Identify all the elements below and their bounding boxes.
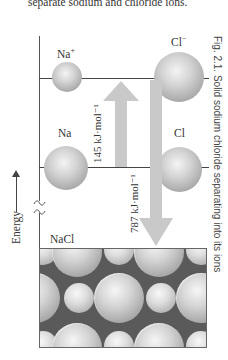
na-ion-lattice bbox=[64, 283, 94, 313]
lattice-energy-arrow-down bbox=[137, 80, 175, 248]
na-ion-lattice bbox=[146, 283, 176, 313]
cl-ion-lattice bbox=[94, 273, 144, 323]
na-ion-lattice bbox=[186, 248, 207, 265]
nacl-crystal-lattice bbox=[39, 248, 207, 348]
cl-ion-lattice bbox=[39, 273, 60, 323]
na-atom-label: Na bbox=[58, 127, 71, 139]
cl-ion-symbol: Cl bbox=[171, 36, 182, 48]
na-atom-sphere bbox=[44, 146, 88, 190]
energy-axis-label: Energy bbox=[10, 170, 24, 250]
na-ion-charge: + bbox=[70, 46, 75, 55]
energy-axis-upper bbox=[39, 36, 40, 201]
cl-ion-lattice bbox=[134, 248, 184, 277]
ionization-arrow-up bbox=[101, 79, 141, 167]
cl-ion-lattice bbox=[176, 273, 207, 323]
cl-ion-charge: − bbox=[182, 34, 187, 43]
cl-ion-lattice bbox=[134, 323, 184, 348]
na-ion-sphere bbox=[52, 62, 82, 92]
figure-caption: Fig. 2.1. Solid sodium chloride separati… bbox=[207, 36, 225, 266]
energy-label-text: Energy bbox=[10, 211, 22, 244]
na-ion-lattice bbox=[186, 331, 207, 348]
na-ion-lattice bbox=[104, 248, 134, 265]
intro-text: separate sodium and chloride ions. bbox=[28, 0, 187, 8]
ionization-energy-label: 145 kJ·mol⁻¹ bbox=[91, 104, 104, 163]
nacl-label: NaCl bbox=[50, 233, 74, 245]
cl-ion-label: Cl− bbox=[171, 34, 186, 48]
energy-arrow-up-icon bbox=[12, 170, 20, 177]
na-ion-lattice bbox=[104, 331, 134, 348]
cl-atom-label: Cl bbox=[174, 127, 185, 139]
energy-axis-lower bbox=[39, 213, 40, 249]
figure-caption-text: Fig. 2.1. Solid sodium chloride separati… bbox=[212, 36, 223, 272]
na-ion-label: Na+ bbox=[57, 46, 75, 60]
cl-ion-lattice bbox=[52, 323, 102, 348]
lattice-energy-label: 787 kJ·mol⁻¹ bbox=[128, 174, 141, 233]
energy-arrow-shaft bbox=[16, 174, 17, 212]
na-ion-symbol: Na bbox=[57, 48, 70, 60]
axis-break-icon bbox=[33, 199, 46, 207]
cl-ion-lattice bbox=[52, 248, 102, 277]
